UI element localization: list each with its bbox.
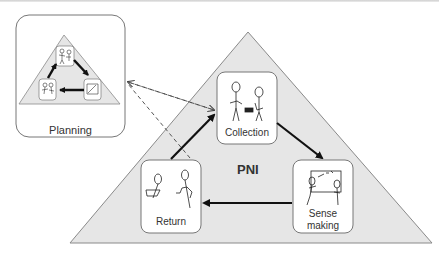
planning-label: Planning (16, 124, 125, 136)
planning-box[interactable] (16, 15, 125, 137)
return-label: Return (141, 216, 201, 228)
sense-making-label-line1: Sense (293, 208, 353, 220)
collection-label: Collection (217, 127, 277, 139)
sense-making-label-line2: making (293, 220, 353, 232)
pni-title: PNI (237, 162, 259, 177)
